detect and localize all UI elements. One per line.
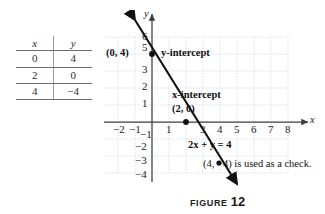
value-table: x y 0 4 2 0 4 −4 <box>16 36 92 100</box>
y-tick-minus2: −2 <box>135 140 147 152</box>
table-cell-y: −4 <box>54 83 92 99</box>
y-tick-5: 5 <box>142 41 148 53</box>
y-intercept-point-label: (0, 4) <box>106 47 129 58</box>
x-tick-6: 6 <box>251 123 257 135</box>
table-cell-x: 4 <box>16 83 54 99</box>
table-cell-x: 2 <box>16 67 54 83</box>
y-axis-label: y <box>144 8 149 19</box>
table-header-row: x y <box>16 36 92 51</box>
table-row: 0 4 <box>16 51 92 67</box>
x-tick-5: 5 <box>234 123 240 135</box>
x-tick-4: 4 <box>217 123 223 135</box>
y-tick-3: 3 <box>142 63 148 75</box>
point-x-intercept <box>183 119 189 125</box>
x-tick-3: 3 <box>200 123 206 135</box>
x-tick-minus1: −1 <box>129 123 141 135</box>
x-axis-label: x <box>310 114 315 125</box>
coordinate-graph: y x −2 −1 1 3 4 5 6 7 8 6 5 3 2 1 −1 −2 … <box>104 10 318 188</box>
table-row: 4 −4 <box>16 83 92 99</box>
y-tick-1: 1 <box>142 97 148 109</box>
equation-label: 2x + y = 4 <box>188 139 231 150</box>
table-header-x: x <box>16 36 54 51</box>
y-tick-minus3: −3 <box>135 154 147 166</box>
x-tick-1: 1 <box>166 123 172 135</box>
x-intercept-label: x-intercept <box>172 89 221 100</box>
figure-page: x y 0 4 2 0 4 −4 <box>0 0 325 214</box>
figure-caption: FIGURE 12 <box>190 194 245 209</box>
check-note: (4, −4) is used as a check. <box>203 158 312 169</box>
y-tick-minus4: −4 <box>135 168 147 180</box>
table-cell-y: 0 <box>54 67 92 83</box>
y-intercept-label: y-intercept <box>161 47 210 58</box>
x-tick-minus2: −2 <box>113 123 125 135</box>
table-row: 2 0 <box>16 67 92 83</box>
table-cell-x: 0 <box>16 51 54 67</box>
table-cell-y: 4 <box>54 51 92 67</box>
figure-caption-number: 12 <box>231 194 245 209</box>
point-y-intercept <box>149 51 155 57</box>
y-tick-minus1: −1 <box>140 128 152 140</box>
figure-caption-word: FIGURE <box>190 198 228 208</box>
x-tick-8: 8 <box>285 123 291 135</box>
x-tick-7: 7 <box>268 123 274 135</box>
x-intercept-point-label: (2, 0) <box>172 103 195 114</box>
y-tick-2: 2 <box>142 80 148 92</box>
table-header-y: y <box>54 36 92 51</box>
